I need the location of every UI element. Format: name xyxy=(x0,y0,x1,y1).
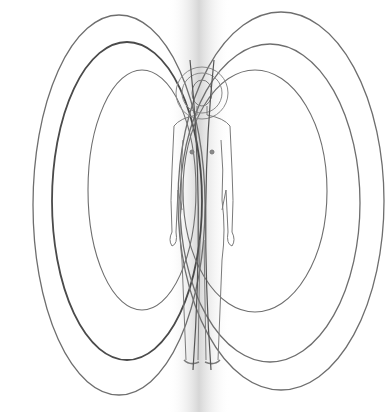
aura-illustration xyxy=(0,0,387,412)
illustration-canvas xyxy=(0,0,387,412)
